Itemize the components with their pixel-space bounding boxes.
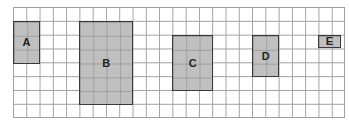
rectangle-e-label: E — [326, 35, 333, 47]
rectangle-a-label: A — [23, 36, 31, 48]
rectangle-e: E — [318, 35, 340, 48]
rectangle-c: C — [172, 35, 213, 91]
rectangle-d-label: D — [262, 50, 270, 62]
rectangle-d: D — [252, 35, 280, 78]
rectangle-c-label: C — [189, 57, 197, 69]
rectangle-a: A — [13, 21, 41, 64]
rectangle-b-label: B — [102, 57, 110, 69]
rectangle-b: B — [79, 21, 133, 105]
